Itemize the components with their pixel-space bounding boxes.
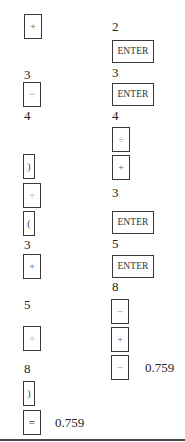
- number-entry: 5: [24, 299, 31, 311]
- equals-key: =: [23, 410, 41, 435]
- number-entry: 3: [112, 187, 119, 199]
- number-entry: 3: [24, 69, 31, 81]
- enter-key: ENTER: [112, 40, 154, 63]
- left-result: 0.759: [55, 417, 84, 429]
- number-entry: 8: [24, 363, 31, 375]
- enter-key: ENTER: [112, 255, 154, 278]
- number-entry: 3: [24, 239, 31, 251]
- number-entry: 2: [112, 21, 119, 33]
- number-entry: 4: [112, 110, 119, 122]
- plus-key: +: [112, 155, 130, 180]
- number-entry: 5: [112, 238, 119, 250]
- bottom-rule: [0, 439, 185, 441]
- open-paren-key: (: [23, 211, 35, 236]
- enter-key: ENTER: [112, 83, 154, 106]
- number-entry: 4: [24, 110, 31, 122]
- divide-key: ÷: [112, 127, 130, 152]
- divide-key: ÷: [111, 355, 129, 380]
- close-paren-key: ): [23, 381, 35, 406]
- divide-key: ÷: [111, 299, 129, 324]
- number-entry: 3: [112, 67, 119, 79]
- divide-key: ÷: [23, 183, 41, 208]
- divide-key: ÷: [23, 326, 41, 351]
- close-paren-key: ): [23, 154, 35, 179]
- plus-key: +: [111, 327, 129, 352]
- right-result: 0.759: [145, 362, 174, 374]
- number-entry: 8: [112, 281, 119, 293]
- divide-key: ÷: [23, 82, 41, 107]
- plus-key: +: [23, 254, 41, 279]
- plus-key: +: [24, 14, 42, 39]
- enter-key: ENTER: [112, 211, 154, 234]
